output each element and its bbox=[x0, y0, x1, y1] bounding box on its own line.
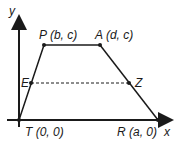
y-axis-label: y bbox=[8, 4, 16, 18]
label-z: Z bbox=[134, 76, 143, 90]
label-t: T (0, 0) bbox=[25, 125, 64, 139]
label-e: E bbox=[21, 76, 30, 90]
label-p: P (b, c) bbox=[39, 28, 77, 42]
point-a bbox=[98, 43, 102, 47]
point-e bbox=[29, 81, 33, 85]
point-r bbox=[156, 118, 160, 122]
trapezoid-diagram: y x P (b, c) A (d, c) E Z T (0, 0) R (a,… bbox=[0, 0, 183, 141]
x-axis-label: x bbox=[163, 125, 171, 139]
label-a: A (d, c) bbox=[94, 28, 133, 42]
label-r: R (a, 0) bbox=[117, 125, 157, 139]
point-t bbox=[17, 118, 21, 122]
point-p bbox=[42, 43, 46, 47]
point-z bbox=[127, 81, 131, 85]
